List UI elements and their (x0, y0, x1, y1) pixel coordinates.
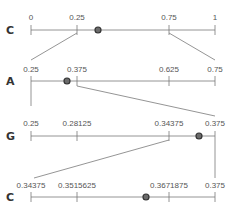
row-1-symbol: C (6, 24, 14, 37)
connector-1-right (169, 33, 215, 60)
row-4-tick-1: 0.3515625 (58, 181, 96, 190)
row-4-symbol: C (6, 191, 14, 204)
row-1-tick-3: 1 (213, 13, 218, 22)
row-1-tick-1: 0.25 (69, 13, 85, 22)
connector-1-left (31, 33, 77, 60)
row-3-tick-1: 0.28125 (63, 119, 92, 128)
row-1-marker (95, 27, 101, 33)
row-2-tick-0: 0.25 (23, 65, 39, 74)
row-4-tick-2: 0.3671875 (150, 181, 188, 190)
row-4-tick-0: 0.34375 (17, 181, 46, 190)
row-3-symbol: G (6, 130, 15, 143)
row-3: G 0.25 0.28125 0.34375 0.375 (6, 119, 226, 143)
row-1-tick-2: 0.75 (161, 13, 177, 22)
row-2-tick-2: 0.625 (159, 65, 180, 74)
row-3-tick-0: 0.25 (23, 119, 39, 128)
connector-3-left (34, 140, 169, 178)
row-4-tick-3: 0.375 (205, 181, 226, 190)
connector-2-right (77, 86, 215, 116)
row-3-tick-3: 0.375 (205, 119, 226, 128)
row-4: C 0.34375 0.3515625 0.3671875 0.375 (6, 181, 226, 204)
row-2-tick-3: 0.75 (207, 65, 223, 74)
row-2-marker (64, 78, 70, 84)
row-1: C 0 0.25 0.75 1 (6, 13, 218, 37)
row-2-tick-1: 0.375 (67, 65, 88, 74)
row-3-marker (196, 133, 202, 139)
row-1-tick-0: 0 (29, 13, 34, 22)
arithmetic-coding-diagram: C 0 0.25 0.75 1 A 0.25 0.375 0.625 0.75 … (0, 0, 239, 212)
row-3-tick-2: 0.34375 (155, 119, 184, 128)
row-2-symbol: A (6, 75, 15, 88)
row-2: A 0.25 0.375 0.625 0.75 (6, 65, 223, 88)
row-4-marker (143, 194, 149, 200)
